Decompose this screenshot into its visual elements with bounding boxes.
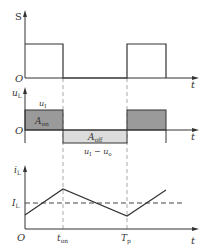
tick-ton-label: ton <box>57 233 68 244</box>
il-average-label: IL <box>11 198 20 209</box>
il-y-arrow-icon <box>23 165 27 172</box>
s-origin-label: O <box>15 73 23 84</box>
plot-ul: uL O t uI Aon Aoff uI − uo <box>12 87 199 157</box>
ul-off-level-label: uI − uo <box>84 147 112 157</box>
s-pulse-train <box>25 44 166 78</box>
s-x-label: t <box>191 79 196 90</box>
il-current-waveform <box>25 189 166 216</box>
ul-on-level-label: uI <box>39 99 46 109</box>
ul-x-label: t <box>191 131 196 142</box>
ul-y-label: uL <box>12 88 22 99</box>
il-origin-label: O <box>17 232 25 243</box>
il-y-label: iL <box>14 165 21 176</box>
ul-y-arrow-icon <box>23 87 27 94</box>
ul-origin-label: O <box>15 125 23 136</box>
s-y-arrow-icon <box>23 10 27 17</box>
s-y-label: S <box>15 11 22 22</box>
waveform-diagram: S O t uL O t uI Aon Aoff uI − uo iL IL O… <box>0 0 208 252</box>
tick-tp-label: Tp <box>121 233 131 245</box>
plot-il: iL IL O ton Tp t <box>11 165 199 246</box>
area-on-2 <box>127 110 166 130</box>
plot-s: S O t <box>15 10 199 90</box>
il-x-arrow-icon <box>192 227 199 231</box>
il-x-label: t <box>191 235 196 246</box>
